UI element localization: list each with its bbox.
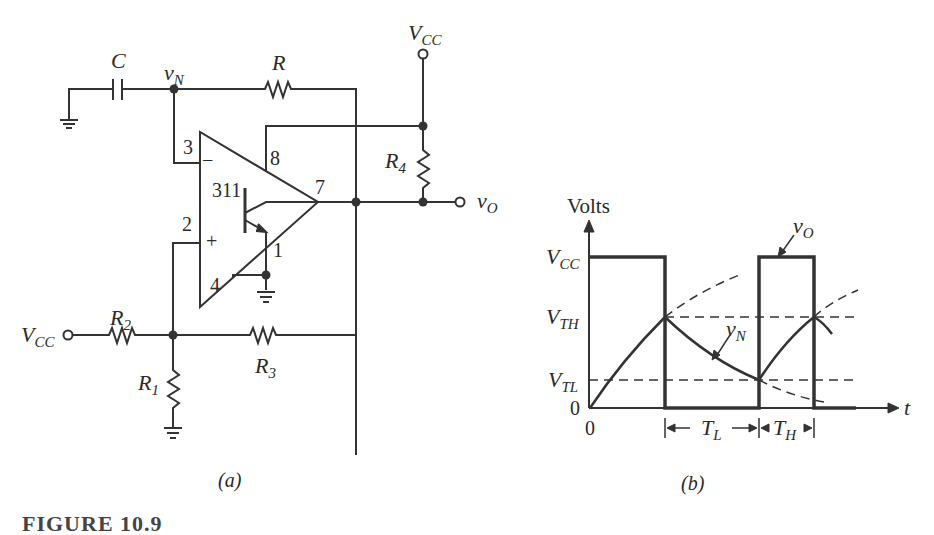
- resistor-r3: [173, 328, 356, 343]
- label-vo: vO: [477, 190, 498, 216]
- label-r: R: [272, 52, 285, 74]
- ground-icon-left: [60, 120, 78, 128]
- pin-8: 8: [270, 148, 280, 168]
- terminal-vcc-left: [64, 331, 73, 340]
- ground-icon-ic: [257, 292, 275, 302]
- y-axis-title: Volts: [567, 196, 610, 217]
- y-zero: 0: [570, 398, 580, 418]
- ground-icon-bottom: [164, 428, 182, 438]
- label-r1: R1: [138, 372, 159, 398]
- subfigure-a-caption: (a): [218, 470, 241, 490]
- label-r2: R2: [110, 307, 131, 333]
- interval-tl: TL: [701, 417, 722, 443]
- label-vn-curve: vN: [726, 318, 746, 344]
- pin-3: 3: [183, 137, 193, 157]
- label-vcc-left: VCC: [21, 324, 54, 350]
- terminal-vo: [456, 198, 465, 207]
- x-zero: 0: [585, 418, 595, 438]
- label-c: C: [111, 50, 126, 72]
- interval-th: TH: [773, 417, 796, 443]
- pin-minus: −: [202, 150, 213, 170]
- label-r3: R3: [255, 355, 276, 381]
- subfigure-b-caption: (b): [681, 473, 704, 493]
- pin-2: 2: [182, 214, 192, 234]
- resistor-r4: [418, 126, 429, 202]
- label-vo-curve: vO: [793, 215, 814, 241]
- capacitor-c: [69, 79, 174, 120]
- label-vcc-top: VCC: [408, 22, 441, 48]
- pin-7: 7: [315, 177, 325, 197]
- figure-caption: FIGURE 10.9: [22, 511, 163, 535]
- label-vn: vN: [164, 62, 184, 88]
- pin-plus: +: [206, 231, 217, 251]
- pin-1: 1: [273, 240, 283, 260]
- level-vtl: VTL: [548, 369, 578, 395]
- x-axis-label: t: [904, 397, 910, 419]
- level-vth: VTH: [546, 306, 579, 332]
- level-vcc: VCC: [546, 246, 579, 272]
- resistor-r1: [168, 335, 179, 428]
- vo-waveform: [590, 257, 856, 408]
- pin-4: 4: [210, 275, 220, 295]
- ic-label-311: 311: [212, 180, 241, 200]
- label-r4: R4: [385, 150, 406, 176]
- terminal-vcc-top: [419, 50, 428, 59]
- vn-waveform: [590, 317, 832, 408]
